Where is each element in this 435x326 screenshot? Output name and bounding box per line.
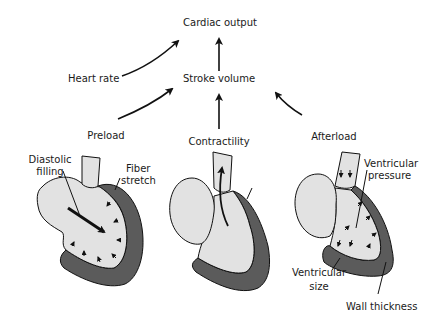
label-ventricular-size-1: Ventricular xyxy=(292,267,346,279)
ventricle-chamber xyxy=(330,188,381,260)
label-filling: filling xyxy=(36,166,63,178)
arrow-preload-to-stroke-volume xyxy=(118,89,172,119)
aorta xyxy=(213,152,232,192)
label-fiber: Fiber xyxy=(126,163,150,175)
node-cardiac-output: Cardiac output xyxy=(183,17,257,29)
label-ventricular-pressure-2: pressure xyxy=(368,170,411,182)
arrow-heart-rate-to-cardiac-output xyxy=(122,41,178,76)
node-afterload: Afterload xyxy=(311,131,356,143)
label-ventricular-pressure-1: Ventricular xyxy=(364,158,418,170)
contractility-leader xyxy=(247,188,252,199)
node-contractility: Contractility xyxy=(188,136,249,148)
aorta xyxy=(335,152,360,188)
label-ventricular-size-2: size xyxy=(309,281,328,293)
heart-contractility-illustration xyxy=(170,152,270,291)
arrow-afterload-to-stroke-volume xyxy=(276,93,302,115)
node-heart-rate: Heart rate xyxy=(68,73,119,85)
label-diastolic: Diastolic xyxy=(29,154,72,166)
node-stroke-volume: Stroke volume xyxy=(183,73,255,85)
aorta xyxy=(82,156,100,188)
atrium xyxy=(295,174,336,238)
node-preload: Preload xyxy=(87,130,124,142)
label-wall-thickness: Wall thickness xyxy=(346,301,417,313)
atrium xyxy=(170,178,215,244)
label-stretch: stretch xyxy=(121,175,156,187)
